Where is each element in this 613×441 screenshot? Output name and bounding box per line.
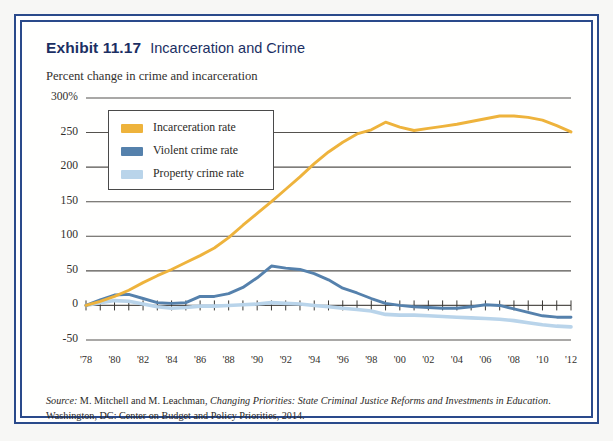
x-axis-tick-label: '98 bbox=[358, 354, 384, 365]
page-title: Incarceration and Crime bbox=[150, 40, 305, 56]
legend-swatch-violent-crime-rate bbox=[121, 147, 143, 156]
x-axis-tick-label: '12 bbox=[558, 354, 584, 365]
x-axis-tick-label: '88 bbox=[216, 354, 242, 365]
y-axis-tick-label: 50 bbox=[38, 263, 78, 276]
y-axis-tick-label: 250 bbox=[38, 125, 78, 138]
chart-legend: Incarceration rate Violent crime rate Pr… bbox=[108, 110, 274, 190]
source-prefix: Source: bbox=[46, 395, 77, 406]
x-axis-tick-label: '90 bbox=[244, 354, 270, 365]
exhibit-title-row: Exhibit 11.17Incarceration and Crime bbox=[46, 39, 305, 57]
exhibit-page: Exhibit 11.17Incarceration and Crime Per… bbox=[0, 0, 613, 441]
y-axis-tick-label: 150 bbox=[38, 194, 78, 207]
y-axis-tick-label: 0 bbox=[38, 297, 78, 310]
y-axis-tick-label: 200 bbox=[38, 159, 78, 172]
source-work-title: Changing Priorities: State Criminal Just… bbox=[210, 395, 548, 406]
x-axis-tick-label: '78 bbox=[73, 354, 99, 365]
y-axis-tick-label: 100 bbox=[38, 228, 78, 241]
exhibit-inner-frame: Exhibit 11.17Incarceration and Crime Per… bbox=[20, 20, 593, 418]
x-axis-tick-label: '06 bbox=[472, 354, 498, 365]
x-axis-tick-label: '96 bbox=[330, 354, 356, 365]
legend-swatch-incarceration-rate bbox=[121, 124, 143, 133]
exhibit-content: Exhibit 11.17Incarceration and Crime Per… bbox=[22, 22, 591, 416]
exhibit-number: Exhibit 11.17 bbox=[46, 39, 141, 56]
legend-label-violent-crime-rate: Violent crime rate bbox=[153, 143, 238, 158]
x-axis-tick-label: '00 bbox=[387, 354, 413, 365]
x-axis-tick-label: '84 bbox=[159, 354, 185, 365]
x-axis-tick-label: '02 bbox=[415, 354, 441, 365]
y-axis-tick-label: -50 bbox=[38, 332, 78, 345]
source-authors: M. Mitchell and M. Leachman, bbox=[77, 395, 210, 406]
chart-plot-area: -50050100150200250300% '78'80'82'84'86'8… bbox=[46, 90, 576, 380]
x-axis-tick-label: '04 bbox=[444, 354, 470, 365]
x-axis-tick-label: '10 bbox=[529, 354, 555, 365]
x-axis-tick-label: '94 bbox=[301, 354, 327, 365]
x-axis-tick-label: '92 bbox=[273, 354, 299, 365]
source-note: Source: M. Mitchell and M. Leachman, Cha… bbox=[46, 394, 586, 424]
x-axis-tick-label: '80 bbox=[102, 354, 128, 365]
legend-label-incarceration-rate: Incarceration rate bbox=[153, 120, 236, 135]
legend-swatch-property-crime-rate bbox=[121, 170, 143, 179]
legend-label-property-crime-rate: Property crime rate bbox=[153, 166, 244, 181]
x-axis-tick-label: '82 bbox=[130, 354, 156, 365]
exhibit-outer-frame: Exhibit 11.17Incarceration and Crime Per… bbox=[14, 14, 599, 424]
x-axis-tick-label: '86 bbox=[187, 354, 213, 365]
chart-subtitle: Percent change in crime and incarceratio… bbox=[46, 69, 258, 84]
y-axis-tick-label: 300% bbox=[38, 90, 78, 103]
x-axis-tick-label: '08 bbox=[501, 354, 527, 365]
